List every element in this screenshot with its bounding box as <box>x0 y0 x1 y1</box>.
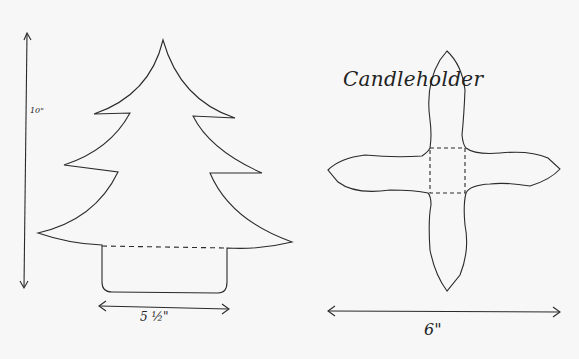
candleholder-width-arrow <box>328 306 560 317</box>
pattern-drawing <box>0 0 579 359</box>
candleholder-width-label: 6" <box>424 320 442 339</box>
tree-fold-line <box>102 246 227 248</box>
candleholder-title: Candleholder <box>343 67 483 91</box>
tree-width-label: 5 ½" <box>140 310 169 324</box>
tree-height-arrow <box>20 33 31 288</box>
tree-height-label: 10" <box>30 106 44 115</box>
candleholder-base-square <box>430 148 465 193</box>
tree-outline <box>38 40 292 293</box>
